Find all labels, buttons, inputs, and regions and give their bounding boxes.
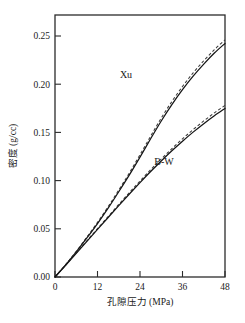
x-tick-label-2: 24 xyxy=(135,282,145,292)
y-tick-label-0: 0.00 xyxy=(33,272,50,282)
x-axis-title: 孔隙压力 (MPa) xyxy=(107,296,174,308)
curve-xu-solid xyxy=(55,43,225,277)
x-tick-label-3: 36 xyxy=(178,282,188,292)
plot-frame xyxy=(55,15,225,277)
curve-xu-dashed xyxy=(55,40,225,277)
chart-svg: 0.00 0.05 0.10 0.15 0.20 0.25 0 12 24 36… xyxy=(0,0,245,323)
x-tick-label-4: 48 xyxy=(220,282,230,292)
chart-figure: 0.00 0.05 0.10 0.15 0.20 0.25 0 12 24 36… xyxy=(0,0,245,323)
y-tick-label-2: 0.10 xyxy=(33,176,50,186)
y-tick-label-5: 0.25 xyxy=(33,31,50,41)
x-axis-ticks xyxy=(55,271,225,277)
curve-label-bw: B-W xyxy=(154,156,174,167)
curve-bw-dashed xyxy=(55,105,225,277)
x-tick-label-1: 12 xyxy=(93,282,103,292)
curve-label-xu: Xu xyxy=(120,69,132,80)
y-tick-label-4: 0.20 xyxy=(33,80,50,90)
curve-bw-solid xyxy=(55,108,225,277)
x-tick-label-0: 0 xyxy=(53,282,58,292)
y-axis-ticks xyxy=(55,36,61,277)
y-tick-label-1: 0.05 xyxy=(33,224,50,234)
y-axis-title: 密度 (g/cc) xyxy=(7,124,19,169)
y-tick-label-3: 0.15 xyxy=(33,128,50,138)
data-curves xyxy=(55,40,225,277)
